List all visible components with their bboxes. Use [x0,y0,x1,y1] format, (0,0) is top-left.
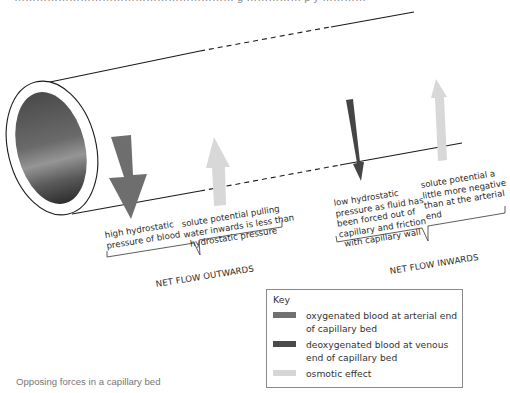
key-item-label: oxygenated blood at arterial end of capi… [306,309,458,335]
key-title: Key [273,294,290,305]
capillary-cross-section [0,71,111,224]
osmotic-arrow-up-icon [206,137,230,206]
cutoff-heading: …………………………………………………… g …………… p y ………… [14,0,366,3]
swatch-deoxygenated [273,341,296,347]
key-item-label: deoxygenated blood at venous end of capi… [306,338,458,364]
capillary-top-wall [50,12,414,82]
figure-caption: Opposing forces in a capillary bed [16,376,161,387]
legend-key: Key oxygenated blood at arterial end of … [266,289,463,388]
low-hydrostatic-arrow-down-icon [346,99,364,181]
key-item-label: osmotic effect [306,367,458,380]
swatch-oxygenated [273,312,296,318]
swatch-osmotic [273,370,296,376]
